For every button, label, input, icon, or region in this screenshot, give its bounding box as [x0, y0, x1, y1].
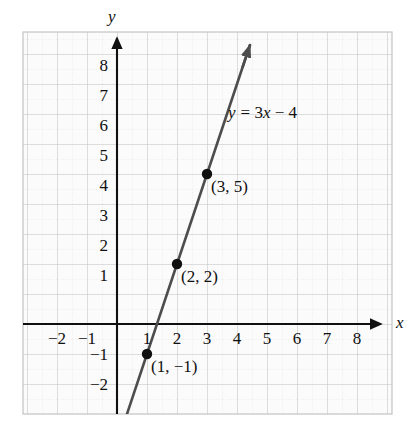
equation-label: y= 3x − 4 — [228, 104, 297, 121]
x-tick-label-4: 4 — [225, 330, 249, 347]
y-tick-label-2: 2 — [86, 237, 108, 254]
major-gridlines — [23, 32, 392, 414]
y-tick-label-6: 6 — [86, 117, 108, 134]
y-tick-label-1: 1 — [86, 267, 108, 284]
point-label-2-2: (2, 2) — [181, 268, 218, 285]
x-tick-label-2: 2 — [165, 330, 189, 347]
x-tick-label-7: 7 — [315, 330, 339, 347]
x-tick-label-5: 5 — [255, 330, 279, 347]
x-tick-label--2: −2 — [45, 330, 69, 347]
point-label-3-5: (3, 5) — [211, 178, 248, 195]
x-tick-label-6: 6 — [285, 330, 309, 347]
y-tick-label--2: −2 — [80, 376, 108, 393]
x-tick-label-1: 1 — [135, 330, 159, 347]
y-tick-label-7: 7 — [86, 87, 108, 104]
y-tick-label-8: 8 — [86, 57, 108, 74]
graph-figure: y x −2 −1 1 2 3 4 5 6 7 8 8 7 6 5 4 3 2 … — [0, 0, 416, 427]
x-axis-label: x — [396, 314, 404, 331]
y-axis-label: y — [108, 8, 116, 25]
y-tick-label-5: 5 — [86, 147, 108, 164]
y-tick-label--1: −1 — [80, 346, 108, 363]
x-tick-label-8: 8 — [345, 330, 369, 347]
coordinate-plane — [0, 0, 416, 427]
equation-equals: = 3 — [241, 103, 263, 122]
x-tick-label-3: 3 — [195, 330, 219, 347]
point-label-1--1: (1, −1) — [151, 358, 197, 375]
y-tick-label-4: 4 — [86, 177, 108, 194]
y-tick-label-3: 3 — [86, 207, 108, 224]
equation-rest: − 4 — [270, 103, 297, 122]
equation-y: y — [228, 103, 236, 122]
